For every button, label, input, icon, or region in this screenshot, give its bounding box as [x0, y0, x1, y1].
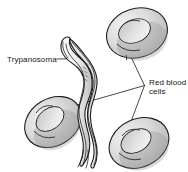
label-red-blood-cells-line2: cells [149, 87, 166, 96]
trypanosoma-blood-cells-illustration: Trypanosoma Red blood cells [0, 0, 188, 172]
label-trypanosoma: Trypanosoma [7, 55, 57, 64]
figure-root: Trypanosoma Red blood cells [0, 0, 188, 172]
label-red-blood-cells-line1: Red blood [149, 78, 186, 87]
